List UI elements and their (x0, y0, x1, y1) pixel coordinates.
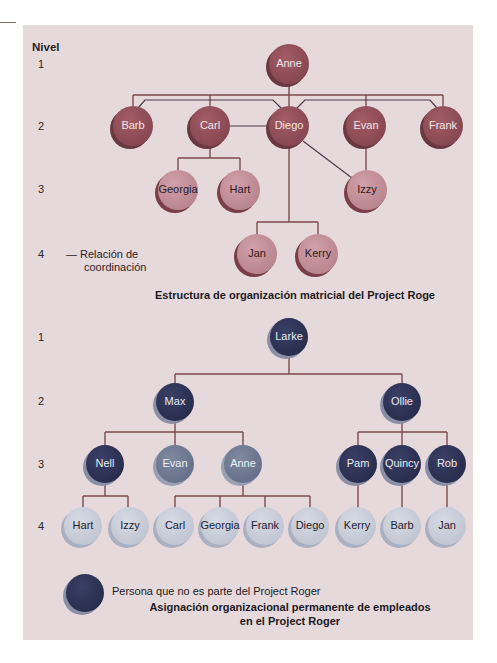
svg-text:Izzy: Izzy (357, 183, 377, 195)
node-frank: Frank (420, 106, 463, 149)
svg-text:Larke: Larke (275, 330, 303, 342)
svg-text:Anne: Anne (276, 57, 302, 69)
svg-text:Nell: Nell (96, 457, 115, 469)
node-kerry: Kerry (295, 234, 338, 277)
node-jan: Jan (234, 234, 277, 277)
svg-text:Jan: Jan (438, 519, 456, 531)
svg-text:Max: Max (165, 395, 186, 407)
node-diego-2: Diego (288, 507, 329, 548)
svg-text:Kerry: Kerry (305, 247, 332, 259)
svg-text:Georgia: Georgia (158, 183, 198, 195)
bottom-caption-line2: en el Project Roger (240, 615, 340, 627)
node-georgia-2: Georgia (198, 507, 240, 548)
node-frank-2: Frank (243, 507, 284, 548)
node-kerry-2: Kerry (335, 507, 376, 548)
svg-text:Diego: Diego (296, 519, 325, 531)
node-anne: Anne (266, 44, 309, 87)
node-barb: Barb (110, 106, 153, 149)
node-jan-2: Jan (425, 507, 466, 548)
node-pam: Pam (336, 445, 377, 486)
node-evan: Evan (343, 106, 386, 149)
node-diego: Diego (266, 106, 309, 149)
node-ollie: Ollie (380, 383, 421, 424)
node-hart-2: Hart (61, 507, 102, 548)
node-carl-2: Carl (153, 507, 194, 548)
legend-not-part-label: Persona que no es parte del Project Roge… (112, 585, 321, 597)
bottom-chart-caption: Asignación organizacional permanente de … (140, 600, 440, 628)
svg-text:Pam: Pam (347, 457, 370, 469)
svg-text:Evan: Evan (162, 457, 187, 469)
svg-text:Barb: Barb (390, 519, 413, 531)
svg-text:Georgia: Georgia (200, 519, 240, 531)
svg-text:Carl: Carl (165, 519, 185, 531)
svg-text:Evan: Evan (353, 119, 378, 131)
node-rob: Rob (425, 445, 466, 486)
node-izzy-2: Izzy (108, 507, 149, 548)
node-hart: Hart (217, 170, 260, 213)
node-anne-2: Anne (221, 445, 262, 486)
svg-text:Hart: Hart (230, 183, 251, 195)
svg-text:Ollie: Ollie (391, 395, 413, 407)
node-quincy: Quincy (380, 445, 421, 486)
svg-text:Carl: Carl (200, 119, 220, 131)
svg-text:Barb: Barb (121, 119, 144, 131)
node-barb-2: Barb (380, 507, 421, 548)
svg-text:Kerry: Kerry (344, 519, 371, 531)
svg-text:Rob: Rob (437, 457, 457, 469)
node-evan-2: Evan (153, 445, 194, 486)
node-nell: Nell (83, 445, 124, 486)
svg-text:Jan: Jan (248, 247, 266, 259)
svg-text:Frank: Frank (429, 119, 458, 131)
bottom-caption-line1: Asignación organizacional permanente de … (149, 601, 430, 613)
bottom-chart-nodes: Larke Max Ollie Nell Evan Anne Pam Quin (61, 318, 466, 548)
legend-swatch-icon (63, 574, 104, 615)
bottom-chart-lines (83, 355, 447, 508)
org-charts: Anne Barb Carl Diego Evan Frank Georgia (0, 0, 497, 663)
top-chart-nodes: Anne Barb Carl Diego Evan Frank Georgia (110, 44, 463, 277)
svg-text:Anne: Anne (230, 457, 256, 469)
svg-text:Diego: Diego (275, 119, 304, 131)
node-carl: Carl (187, 106, 230, 149)
svg-text:Quincy: Quincy (385, 457, 420, 469)
svg-text:Frank: Frank (251, 519, 280, 531)
node-max: Max (153, 383, 194, 424)
node-georgia: Georgia (155, 170, 198, 213)
svg-text:Hart: Hart (73, 519, 94, 531)
svg-text:Izzy: Izzy (120, 519, 140, 531)
node-larke: Larke (267, 318, 308, 359)
